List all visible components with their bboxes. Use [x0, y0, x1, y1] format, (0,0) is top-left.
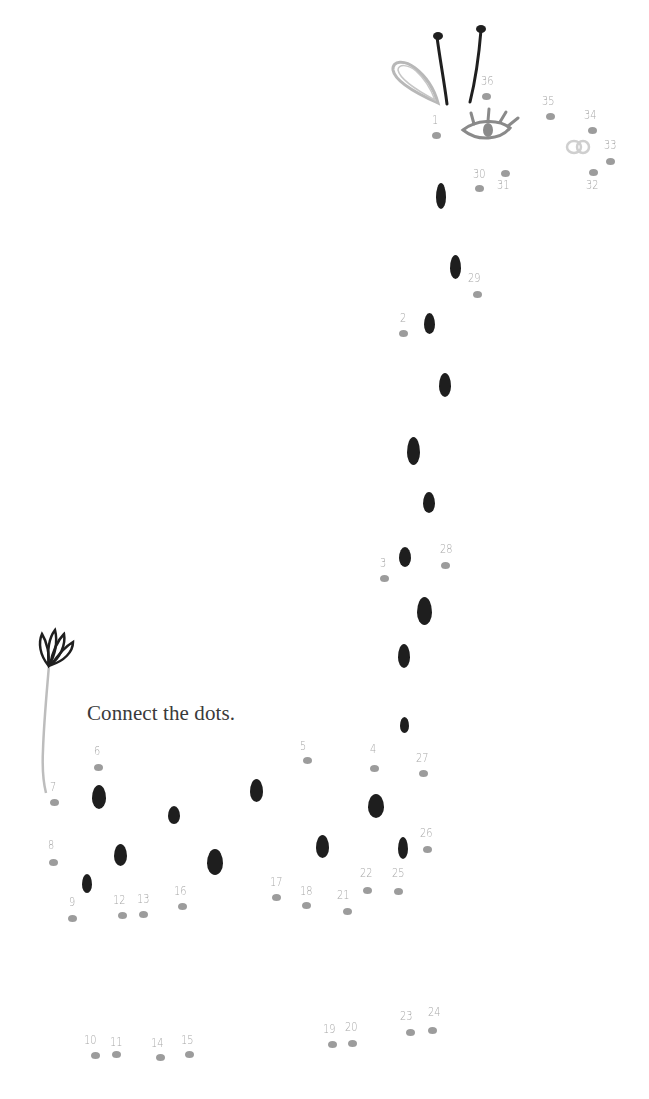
dot-2[interactable] — [399, 330, 408, 337]
dot-number-label: 35 — [542, 94, 554, 107]
giraffe-spot — [424, 313, 435, 334]
dot-4[interactable] — [370, 765, 379, 772]
dot-number-label: 28 — [440, 542, 452, 555]
dot-11[interactable] — [112, 1051, 121, 1058]
giraffe-spot — [250, 779, 263, 802]
dot-number-label: 26 — [420, 826, 432, 839]
giraffe-spot — [423, 492, 435, 513]
dot-number-label: 20 — [345, 1020, 357, 1033]
giraffe-spot — [398, 644, 410, 668]
dot-number-label: 21 — [337, 888, 349, 901]
dot-number-label: 22 — [360, 866, 372, 879]
dot-number-label: 31 — [497, 178, 509, 191]
dot-31[interactable] — [501, 170, 510, 177]
dot-number-label: 34 — [584, 108, 596, 121]
dot-number-label: 36 — [481, 74, 493, 87]
giraffe-spot — [407, 437, 420, 465]
eye-icon — [463, 109, 518, 138]
giraffe-spot — [417, 597, 432, 625]
dot-24[interactable] — [428, 1027, 437, 1034]
dot-23[interactable] — [406, 1029, 415, 1036]
dot-19[interactable] — [328, 1041, 337, 1048]
nostril-icon — [567, 141, 589, 153]
dot-number-label: 14 — [151, 1036, 163, 1049]
dot-16[interactable] — [178, 903, 187, 910]
dot-number-label: 24 — [428, 1005, 440, 1018]
dot-3[interactable] — [380, 575, 389, 582]
giraffe-spot — [207, 849, 223, 875]
dot-26[interactable] — [423, 846, 432, 853]
giraffe-spot — [82, 874, 92, 893]
giraffe-spot — [368, 794, 384, 818]
instruction-text: Connect the dots. — [87, 701, 235, 726]
dot-12[interactable] — [118, 912, 127, 919]
giraffe-spot — [400, 717, 409, 733]
dot-number-label: 8 — [48, 838, 54, 851]
dot-14[interactable] — [156, 1054, 165, 1061]
dot-number-label: 6 — [94, 744, 100, 757]
dot-8[interactable] — [49, 859, 58, 866]
dot-number-label: 25 — [392, 866, 404, 879]
dot-32[interactable] — [589, 169, 598, 176]
dot-15[interactable] — [185, 1051, 194, 1058]
dot-34[interactable] — [588, 127, 597, 134]
dot-number-label: 16 — [174, 884, 186, 897]
dot-number-label: 5 — [300, 739, 306, 752]
giraffe-spot — [92, 785, 106, 809]
dot-20[interactable] — [348, 1040, 357, 1047]
dot-number-label: 27 — [416, 751, 428, 764]
dot-number-label: 12 — [113, 893, 125, 906]
dot-22[interactable] — [363, 887, 372, 894]
giraffe-spot — [436, 183, 446, 209]
giraffe-spot — [168, 806, 180, 824]
flower-icon — [40, 630, 73, 793]
dot-number-label: 19 — [323, 1022, 335, 1035]
dot-number-label: 9 — [69, 895, 75, 908]
giraffe-spot — [450, 255, 461, 279]
giraffe-spot — [114, 844, 127, 866]
dot-29[interactable] — [473, 291, 482, 298]
dot-30[interactable] — [475, 185, 484, 192]
giraffe-spot — [399, 547, 411, 567]
dot-10[interactable] — [91, 1052, 100, 1059]
dot-35[interactable] — [546, 113, 555, 120]
dot-1[interactable] — [432, 132, 441, 139]
dot-number-label: 2 — [400, 311, 406, 324]
dot-18[interactable] — [302, 902, 311, 909]
horn-right-icon — [470, 25, 486, 102]
dot-5[interactable] — [303, 757, 312, 764]
dot-27[interactable] — [419, 770, 428, 777]
dot-number-label: 30 — [473, 167, 485, 180]
dot-number-label: 1 — [432, 113, 438, 126]
dot-9[interactable] — [68, 915, 77, 922]
dot-number-label: 33 — [604, 138, 616, 151]
dot-number-label: 23 — [400, 1009, 412, 1022]
dot-33[interactable] — [606, 158, 615, 165]
dot-number-label: 11 — [110, 1035, 122, 1048]
dot-7[interactable] — [50, 799, 59, 806]
dot-number-label: 13 — [137, 892, 149, 905]
giraffe-spot — [398, 837, 408, 859]
connect-the-dots-page: Connect the dots. 1234567891011121314151… — [0, 0, 649, 1099]
dot-number-label: 15 — [181, 1033, 193, 1046]
dot-17[interactable] — [272, 894, 281, 901]
dot-number-label: 32 — [586, 178, 598, 191]
dot-number-label: 7 — [50, 780, 56, 793]
dot-13[interactable] — [139, 911, 148, 918]
giraffe-spot — [439, 373, 451, 397]
dot-number-label: 17 — [270, 875, 282, 888]
giraffe-spot — [316, 835, 329, 858]
dot-number-label: 29 — [468, 271, 480, 284]
dot-number-label: 3 — [380, 556, 386, 569]
dot-21[interactable] — [343, 908, 352, 915]
giraffe-artwork — [0, 0, 649, 1099]
dot-number-label: 4 — [370, 742, 376, 755]
dot-28[interactable] — [441, 562, 450, 569]
ear-icon — [393, 62, 438, 103]
dot-number-label: 10 — [84, 1033, 96, 1046]
dot-number-label: 18 — [300, 884, 312, 897]
dot-6[interactable] — [94, 764, 103, 771]
dot-25[interactable] — [394, 888, 403, 895]
dot-36[interactable] — [482, 93, 491, 100]
